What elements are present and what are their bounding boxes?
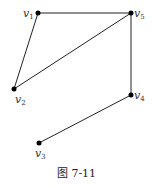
vertex-labels: v1v5v2v4v3 <box>15 7 145 161</box>
label-v2: v2 <box>15 93 26 107</box>
edge-v1-v2 <box>14 13 38 89</box>
label-v5: v5 <box>134 7 145 21</box>
vertex-v1 <box>36 11 41 16</box>
vertex-v3 <box>37 141 42 146</box>
edge-v2-v5 <box>14 13 131 89</box>
vertex-v5 <box>129 11 134 16</box>
vertex-v2 <box>12 87 17 92</box>
label-v3: v3 <box>35 147 46 161</box>
label-v1: v1 <box>23 7 34 21</box>
graph-edges <box>14 13 131 143</box>
label-v4: v4 <box>134 89 145 103</box>
edge-v4-v3 <box>39 95 131 143</box>
figure-caption: 图 7-11 <box>0 164 153 180</box>
vertex-v4 <box>129 93 134 98</box>
graph-diagram: v1v5v2v4v3 <box>0 0 153 165</box>
